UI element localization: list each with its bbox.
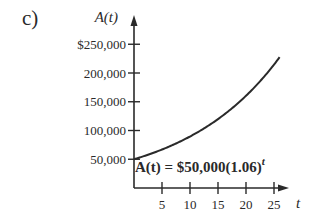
x-axis-label: t [296, 195, 301, 211]
y-tick-label: 150,000 [84, 94, 126, 109]
y-axis-label: A(t) [94, 9, 118, 26]
x-tick-label: 15 [212, 197, 225, 212]
y-tick-label: $250,000 [77, 37, 126, 52]
formula-annotation: A(t) = $50,000(1.06)t [135, 155, 266, 176]
y-axis-ticks: 50,000100,000150,000200,000$250,000 [77, 37, 140, 167]
x-tick-label: 20 [240, 197, 253, 212]
x-axis-ticks: 510152025 [159, 182, 281, 212]
growth-curve [134, 57, 280, 159]
x-tick-label: 5 [159, 197, 166, 212]
x-tick-label: 25 [268, 197, 281, 212]
y-tick-label: 200,000 [84, 66, 126, 81]
y-tick-label: 100,000 [84, 123, 126, 138]
exponential-growth-chart: 50,000100,000150,000200,000$250,000 5101… [0, 0, 318, 219]
y-axis-arrow-icon [131, 15, 138, 26]
x-tick-label: 10 [184, 197, 197, 212]
x-axis-arrow-icon [278, 185, 289, 192]
y-tick-label: 50,000 [90, 152, 126, 167]
